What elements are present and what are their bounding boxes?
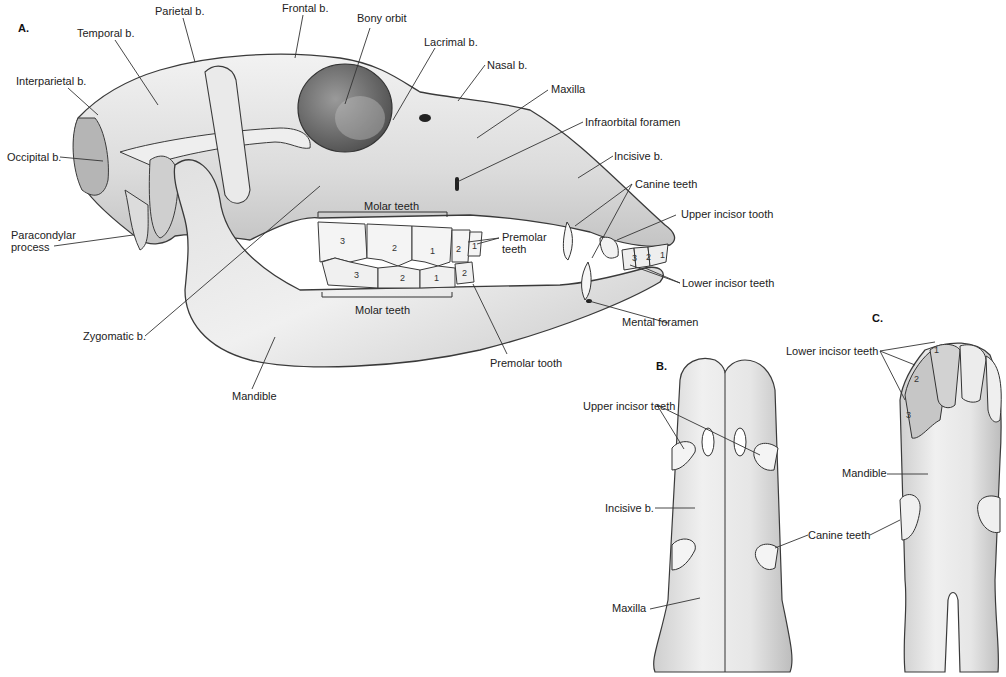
label-canine-teeth: Canine teeth [635, 178, 697, 191]
svg-text:2: 2 [392, 243, 397, 253]
svg-text:1: 1 [934, 345, 939, 355]
label-infraorbital-foramen: Infraorbital foramen [585, 116, 680, 129]
label-lacrimal-bone: Lacrimal b. [424, 36, 478, 49]
label-upper-incisor-tooth: Upper incisor tooth [681, 208, 773, 221]
svg-text:3: 3 [340, 236, 345, 246]
label-paracondylar-process-line2: process [11, 241, 50, 254]
svg-text:3: 3 [354, 270, 359, 280]
label-interparietal-bone: Interparietal b. [16, 75, 86, 88]
svg-text:1: 1 [430, 246, 435, 256]
label-frontal-bone: Frontal b. [282, 2, 328, 15]
panel-a-label: A. [18, 22, 29, 34]
label-mental-foramen: Mental foramen [622, 316, 698, 329]
svg-text:1: 1 [434, 273, 439, 283]
svg-text:1: 1 [660, 250, 665, 260]
svg-text:2: 2 [462, 268, 467, 278]
label-mandible: Mandible [232, 390, 277, 403]
label-molar-teeth-upper: Molar teeth [364, 200, 419, 213]
label-zygomatic-bone: Zygomatic b. [83, 330, 146, 343]
label-bony-orbit: Bony orbit [357, 12, 407, 25]
label-temporal-bone: Temporal b. [77, 27, 134, 40]
label-c-lower-incisor-teeth: Lower incisor teeth [786, 345, 878, 358]
label-b-upper-incisor-teeth: Upper incisor teeth [583, 400, 675, 413]
label-c-mandible: Mandible [842, 467, 887, 480]
label-b-maxilla: Maxilla [612, 602, 646, 615]
svg-text:1: 1 [472, 241, 477, 251]
label-molar-teeth-lower: Molar teeth [355, 304, 410, 317]
label-nasal-bone: Nasal b. [487, 59, 527, 72]
svg-text:2: 2 [646, 252, 651, 262]
skull-illustration: 3 2 1 2 1 3 2 1 2 3 2 1 1 2 3 [0, 0, 1006, 677]
svg-text:2: 2 [914, 374, 919, 384]
label-occipital-bone: Occipital b. [7, 151, 61, 164]
panel-c-label: C. [872, 312, 883, 324]
label-maxilla: Maxilla [551, 83, 585, 96]
label-incisive-bone: Incisive b. [614, 150, 663, 163]
label-lower-incisor-teeth: Lower incisor teeth [682, 277, 774, 290]
label-b-incisive-bone: Incisive b. [605, 502, 654, 515]
lower-jaw-dorsal-view: 1 2 3 [900, 343, 1001, 672]
svg-text:3: 3 [632, 253, 637, 263]
label-premolar-tooth: Premolar tooth [490, 357, 562, 370]
label-premolar-teeth-line2: teeth [502, 243, 526, 256]
svg-text:2: 2 [456, 244, 461, 254]
panel-b-label: B. [656, 360, 667, 372]
svg-text:3: 3 [906, 410, 911, 420]
label-b-canine-teeth: Canine teeth [808, 529, 870, 542]
label-parietal-bone: Parietal b. [155, 5, 205, 18]
svg-text:2: 2 [400, 273, 405, 283]
